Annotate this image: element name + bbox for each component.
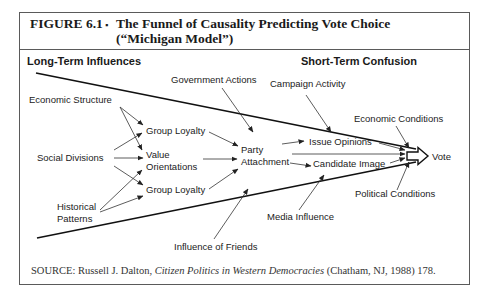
node-campaign-activity: Campaign Activity [270, 78, 346, 89]
node-media-influence: Media Influence [267, 211, 334, 222]
source-book-title: Citizen Politics in Western Democracies [155, 265, 324, 276]
node-economic-structure: Economic Structure [29, 94, 112, 105]
node-economic-conditions: Economic Conditions [354, 113, 443, 124]
source-prefix: SOURCE: Russell J. Dalton, [31, 265, 155, 276]
arrow-campaign-to-issue [306, 95, 331, 132]
node-group-loyalty-top: Group Loyalty [146, 125, 205, 136]
node-group-loyalty-bottom: Group Loyalty [146, 184, 205, 195]
heading-short-term: Short-Term Confusion [301, 55, 417, 67]
node-candidate-image: Candidate Image [313, 158, 385, 169]
node-party-attachment-2: Attachment [241, 156, 289, 167]
node-social-divisions: Social Divisions [37, 152, 104, 163]
arrow-group-top-to-party [209, 132, 238, 146]
arrow-media-to-candidate [299, 175, 324, 210]
node-vote: Vote [432, 151, 451, 162]
arrow-econ-to-group-top [120, 107, 143, 125]
figure-label: FIGURE 6.1 [30, 16, 103, 31]
arrow-party-to-candidate [290, 163, 311, 166]
figure-title-line1: The Funnel of Causality Predicting Vote … [116, 16, 390, 31]
node-value-orientations-1: Value [146, 149, 170, 160]
node-influence-of-friends: Influence of Friends [174, 241, 258, 252]
source-suffix: (Chatham, NJ, 1988) 178. [324, 265, 436, 277]
vote-arrow-icon [407, 148, 428, 165]
arrow-candidate-to-vote [390, 158, 405, 163]
figure-title-line2: (“Michigan Model”) [116, 31, 233, 46]
funnel-of-causality-figure: FIGURE 6.1 ▪ The Funnel of Causality Pre… [0, 0, 483, 298]
node-party-attachment-1: Party [241, 144, 263, 155]
arrow-social-to-group-bottom [114, 166, 143, 185]
node-political-conditions: Political Conditions [355, 188, 436, 199]
arrow-gov-to-party [222, 88, 253, 132]
arrow-econ-to-value [120, 107, 142, 150]
heading-long-term: Long-Term Influences [27, 55, 141, 67]
source-citation: SOURCE: Russell J. Dalton, Citizen Polit… [31, 265, 436, 277]
node-historical-patterns-2: Patterns [57, 213, 93, 224]
arrow-friends-to-party [214, 189, 248, 239]
node-government-actions: Government Actions [171, 74, 257, 85]
node-issue-opinions: Issue Opinions [309, 136, 372, 147]
node-historical-patterns-1: Historical [57, 201, 96, 212]
funnel-bottom-line [37, 162, 416, 238]
arrow-group-bottom-to-party [209, 169, 238, 189]
title-bullet: ▪ [105, 20, 108, 30]
node-value-orientations-2: Orientations [146, 161, 197, 172]
arrow-party-to-issue [282, 141, 304, 144]
